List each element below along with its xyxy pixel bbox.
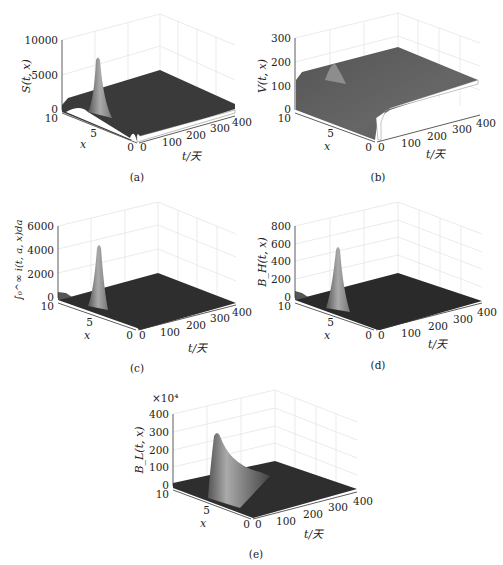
t-tick: 0 bbox=[140, 141, 147, 153]
z-axis-label: B_H(t, x) bbox=[256, 237, 269, 287]
z-tick: 4000 bbox=[27, 244, 54, 256]
surface-plot-a: 10000 5000 0 10 5 0 0 100 200 300 400 x … bbox=[0, 0, 250, 190]
x-tick: 10 bbox=[45, 112, 58, 124]
t-tick: 200 bbox=[428, 320, 448, 332]
z-tick: 2000 bbox=[27, 268, 54, 280]
z-tick: 6000 bbox=[27, 220, 54, 232]
panel-c: 6000 4000 2000 0 10 5 0 0 100 200 300 40… bbox=[0, 190, 250, 380]
x-tick: 0 bbox=[127, 141, 134, 153]
t-tick: 0 bbox=[139, 329, 146, 341]
panel-d: 800 600 400 200 0 10 5 0 0 100 200 300 4… bbox=[250, 190, 503, 380]
t-tick: 100 bbox=[160, 326, 180, 338]
caption: (e) bbox=[249, 548, 263, 560]
t-tick: 100 bbox=[401, 327, 421, 339]
x-tick: 0 bbox=[126, 329, 133, 341]
panel-e: ×10⁴ 400 300 200 100 0 10 5 0 0 100 200 … bbox=[120, 380, 380, 565]
t-axis-label: t/天 bbox=[426, 148, 446, 161]
x-tick: 5 bbox=[86, 316, 93, 328]
t-tick: 0 bbox=[378, 141, 385, 153]
z-tick: 300 bbox=[149, 426, 169, 438]
panel-b: 300 200 100 0 10 5 0 0 100 200 300 400 x… bbox=[250, 0, 503, 190]
x-tick: 10 bbox=[278, 112, 291, 124]
x-axis-label: x bbox=[200, 517, 207, 530]
x-tick: 10 bbox=[41, 300, 54, 312]
t-tick: 0 bbox=[378, 329, 385, 341]
z-axis-label: S(t, x) bbox=[20, 59, 33, 93]
t-tick: 300 bbox=[210, 122, 230, 134]
z-tick: 5000 bbox=[31, 69, 58, 81]
caption: (a) bbox=[130, 171, 144, 183]
x-axis-label: x bbox=[324, 140, 331, 153]
surface-plateau bbox=[296, 47, 478, 140]
x-axis-label: x bbox=[80, 138, 87, 151]
z-tick: 800 bbox=[271, 220, 291, 232]
t-tick: 300 bbox=[452, 123, 472, 135]
t-tick: 100 bbox=[162, 136, 182, 148]
z-axis-label: V(t, x) bbox=[256, 59, 269, 93]
caption: (d) bbox=[371, 359, 386, 371]
t-axis-label: t/天 bbox=[182, 150, 202, 163]
t-tick: 100 bbox=[401, 137, 421, 149]
z-axis-label: B_L(t, x) bbox=[133, 426, 146, 474]
x-tick: 5 bbox=[90, 127, 97, 139]
t-tick: 300 bbox=[210, 312, 230, 324]
t-tick: 100 bbox=[276, 515, 296, 527]
panel-a: 10000 5000 0 10 5 0 0 100 200 300 400 x … bbox=[0, 0, 250, 190]
z-tick: 200 bbox=[271, 273, 291, 285]
x-tick: 0 bbox=[243, 518, 250, 530]
x-tick: 10 bbox=[156, 488, 169, 500]
surface-plot-c: 6000 4000 2000 0 10 5 0 0 100 200 300 40… bbox=[0, 190, 250, 380]
t-tick: 300 bbox=[453, 313, 473, 325]
surface-plot-d: 800 600 400 200 0 10 5 0 0 100 200 300 4… bbox=[250, 190, 503, 380]
t-tick: 200 bbox=[427, 130, 447, 142]
t-tick: 300 bbox=[328, 501, 348, 513]
z-tick: 100 bbox=[149, 461, 169, 473]
t-tick: 400 bbox=[477, 306, 497, 318]
z-tick: 10000 bbox=[25, 34, 58, 46]
surface-plot-e: ×10⁴ 400 300 200 100 0 10 5 0 0 100 200 … bbox=[120, 380, 380, 565]
t-tick: 200 bbox=[303, 508, 323, 520]
x-tick: 5 bbox=[327, 127, 334, 139]
x-tick: 5 bbox=[203, 504, 210, 516]
x-tick: 0 bbox=[365, 141, 372, 153]
t-tick: 400 bbox=[476, 117, 496, 129]
t-axis-label: t/天 bbox=[304, 528, 324, 541]
t-axis-label: t/天 bbox=[188, 342, 208, 355]
t-tick: 0 bbox=[255, 518, 262, 530]
x-tick: 0 bbox=[365, 329, 372, 341]
t-tick: 400 bbox=[353, 495, 373, 507]
t-tick: 200 bbox=[186, 129, 206, 141]
t-tick: 200 bbox=[186, 319, 206, 331]
z-tick: 400 bbox=[271, 255, 291, 267]
z-axis-label: ∫₀^∞ i(t, a, x)da bbox=[13, 220, 24, 301]
caption: (c) bbox=[130, 362, 144, 374]
x-axis-label: x bbox=[84, 329, 91, 342]
z-tick: 100 bbox=[271, 80, 291, 92]
z-tick: 600 bbox=[271, 238, 291, 250]
x-tick: 5 bbox=[327, 316, 334, 328]
z-exponent: ×10⁴ bbox=[152, 392, 178, 404]
t-axis-label: t/天 bbox=[428, 338, 448, 351]
surface-plot-b: 300 200 100 0 10 5 0 0 100 200 300 400 x… bbox=[250, 0, 503, 190]
x-axis-label: x bbox=[324, 329, 331, 342]
z-tick: 200 bbox=[271, 56, 291, 68]
z-tick: 200 bbox=[149, 444, 169, 456]
peak-surface bbox=[326, 247, 350, 312]
z-tick: 300 bbox=[271, 32, 291, 44]
x-tick: 10 bbox=[278, 300, 291, 312]
caption: (b) bbox=[371, 171, 386, 183]
z-tick: 400 bbox=[149, 408, 169, 420]
